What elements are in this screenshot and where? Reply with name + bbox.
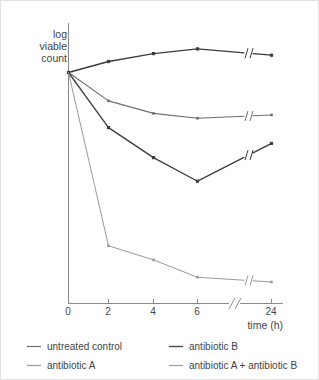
data-point-marker xyxy=(270,281,273,284)
line-chart: log viable count 0 2 4 6 24 time (h) xyxy=(1,1,319,380)
x-tick-label-4: 4 xyxy=(150,306,156,317)
series-path-break-left xyxy=(198,157,245,181)
data-point-marker xyxy=(152,112,155,115)
legend-label-antibiotic-a-plus-b: antibiotic A + antibiotic B xyxy=(189,360,297,371)
series-path-break-right xyxy=(253,115,272,116)
x-tick-label-0: 0 xyxy=(65,306,71,317)
data-point-marker xyxy=(270,142,273,145)
x-axis-ticks xyxy=(69,299,272,304)
data-point-marker xyxy=(270,114,273,117)
legend-label-antibiotic-a: antibiotic A xyxy=(47,360,96,371)
data-point-marker xyxy=(107,126,110,129)
y-axis-label-line-1: log xyxy=(53,28,67,40)
data-point-marker xyxy=(152,259,155,262)
data-point-marker xyxy=(107,100,110,103)
series-antibiotic-a xyxy=(69,73,274,183)
x-tick-label-6: 6 xyxy=(194,306,200,317)
chart-legend: untreated control antibiotic A antibioti… xyxy=(27,341,297,371)
series-path-main xyxy=(69,73,198,278)
legend-label-untreated-control: untreated control xyxy=(47,341,122,352)
legend-label-antibiotic-b: antibiotic B xyxy=(189,341,238,352)
series-path-break-right xyxy=(253,54,272,56)
data-point-marker xyxy=(107,244,110,247)
x-tick-label-2: 2 xyxy=(105,306,111,317)
series-break-icon xyxy=(245,150,253,160)
chart-figure: log viable count 0 2 4 6 24 time (h) xyxy=(0,0,319,380)
series-untreated-control xyxy=(67,47,273,74)
series-path-main xyxy=(69,49,198,73)
y-axis-label-line-2: viable xyxy=(40,40,68,52)
y-axis-label-line-3: count xyxy=(41,52,67,64)
x-axis-label: time (h) xyxy=(247,319,283,331)
series-break-icon xyxy=(245,111,253,121)
series-path-break-right xyxy=(253,281,272,282)
data-point-marker xyxy=(152,156,155,159)
series-break-icon xyxy=(245,276,253,286)
series-path-main xyxy=(69,73,198,182)
series-break-icon xyxy=(245,48,253,58)
data-point-marker xyxy=(196,117,199,120)
series-layer xyxy=(67,47,273,285)
series-path-break-right xyxy=(253,143,272,152)
data-point-marker xyxy=(196,276,199,279)
x-axis-break-icon xyxy=(229,298,241,309)
series-path-break-left xyxy=(198,49,245,53)
series-antibiotic-a-antibiotic-b xyxy=(69,73,273,286)
series-path-break-left xyxy=(198,116,245,118)
data-point-marker xyxy=(196,47,199,50)
data-point-marker xyxy=(196,180,199,183)
x-tick-label-24: 24 xyxy=(265,306,277,317)
series-path-main xyxy=(69,73,198,119)
data-point-marker xyxy=(270,54,273,57)
data-point-marker xyxy=(107,60,110,63)
data-point-marker xyxy=(152,52,155,55)
series-path-break-left xyxy=(198,277,245,280)
